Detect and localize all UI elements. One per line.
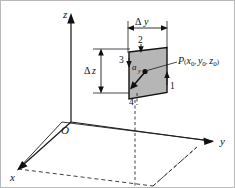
normal-vector-label: a [132,62,137,72]
origin-label: O [61,124,69,136]
face-2-label: 2 [138,35,143,45]
point-p-close-paren: ) [217,58,220,66]
delta-y-delta-symbol: Δ [135,16,142,27]
differential-surface-patch [129,48,167,100]
figure-container: z y x O Δ y Δ z [0,0,235,188]
ground-edge-left-solid [18,122,62,169]
delta-z-arrowhead-bottom [98,87,104,94]
delta-y-variable: y [143,16,149,27]
delta-z-dimension: Δ z [84,49,104,94]
delta-z-delta-symbol: Δ [84,65,91,76]
ground-plane-outline [18,122,213,186]
z-axis [67,13,75,122]
point-p-label-group: P(x0, y0, z0) [177,55,220,68]
face-3-label: 3 [119,55,124,65]
face-4-label: 4 [129,97,134,107]
y-axis [71,122,214,145]
ground-edge-front-dashed [18,169,153,186]
delta-z-variable: z [91,65,96,76]
point-p-dot [142,69,147,74]
y-axis-label: y [219,135,225,147]
z-axis-label: z [62,8,68,20]
face-1-label: 1 [170,81,175,91]
x-axis-label: x [9,171,15,183]
normal-vector-subscript: y [137,67,141,74]
projection-lines [135,100,197,186]
y-axis-arrowhead [203,138,214,146]
diagram-canvas: z y x O Δ y Δ z [1,1,235,188]
delta-y-dimension: Δ y [127,16,168,31]
point-p-name: P [177,55,184,66]
point-p-label: P(x0, y0, z0) [177,55,220,68]
z-axis-arrowhead [67,13,75,24]
y-axis-line [71,122,206,141]
delta-z-arrowhead-top [98,49,104,56]
